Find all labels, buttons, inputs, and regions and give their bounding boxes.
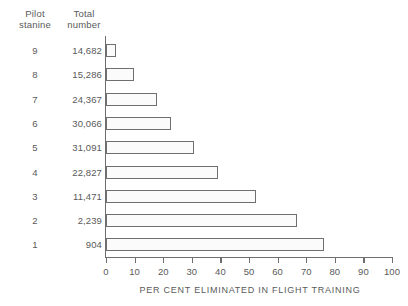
x-axis-tick-label: 30 xyxy=(177,266,207,278)
column-header-total-number: Total number xyxy=(62,8,106,30)
row-total-number: 2,239 xyxy=(56,215,102,227)
bar-chart: Pilot stanine Total number 914,682815,28… xyxy=(0,0,408,306)
y-axis-line xyxy=(105,36,106,258)
x-axis-tick xyxy=(335,258,336,263)
bar xyxy=(106,238,324,251)
x-axis-tick xyxy=(163,258,164,263)
row-stanine-label: 8 xyxy=(8,69,62,81)
table-row: 1904 xyxy=(0,236,408,254)
x-axis-tick-label: 0 xyxy=(91,266,121,278)
row-total-number: 15,286 xyxy=(56,69,102,81)
x-axis-tick xyxy=(220,258,221,263)
table-row: 311,471 xyxy=(0,188,408,206)
column-header-pilot-stanine: Pilot stanine xyxy=(8,8,62,30)
row-total-number: 30,066 xyxy=(56,118,102,130)
row-stanine-label: 5 xyxy=(8,142,62,154)
x-axis-tick xyxy=(392,258,393,263)
row-total-number: 24,367 xyxy=(56,94,102,106)
bar xyxy=(106,214,297,227)
row-stanine-label: 9 xyxy=(8,45,62,57)
x-axis-tick-label: 90 xyxy=(348,266,378,278)
x-axis-tick xyxy=(249,258,250,263)
x-axis-title: PER CENT ELIMINATED IN FLIGHT TRAINING xyxy=(105,285,395,295)
table-row: 630,066 xyxy=(0,115,408,133)
row-total-number: 904 xyxy=(56,239,102,251)
table-row: 815,286 xyxy=(0,66,408,84)
table-row: 914,682 xyxy=(0,42,408,60)
table-row: 724,367 xyxy=(0,91,408,109)
table-row: 422,827 xyxy=(0,164,408,182)
row-stanine-label: 6 xyxy=(8,118,62,130)
row-total-number: 31,091 xyxy=(56,142,102,154)
x-axis-tick-label: 10 xyxy=(120,266,150,278)
x-axis-tick-label: 70 xyxy=(291,266,321,278)
bar xyxy=(106,44,116,57)
row-stanine-label: 1 xyxy=(8,239,62,251)
row-stanine-label: 4 xyxy=(8,167,62,179)
x-axis-tick xyxy=(363,258,364,263)
bar xyxy=(106,166,218,179)
bar xyxy=(106,93,157,106)
bar xyxy=(106,190,256,203)
bar xyxy=(106,68,134,81)
x-axis-tick-label: 20 xyxy=(148,266,178,278)
x-axis-tick xyxy=(135,258,136,263)
row-total-number: 22,827 xyxy=(56,167,102,179)
bar xyxy=(106,117,171,130)
bar xyxy=(106,141,194,154)
row-stanine-label: 3 xyxy=(8,191,62,203)
x-axis-tick-label: 100 xyxy=(377,266,407,278)
x-axis-tick xyxy=(278,258,279,263)
x-axis-tick xyxy=(192,258,193,263)
x-axis-tick-label: 40 xyxy=(205,266,235,278)
table-row: 22,239 xyxy=(0,212,408,230)
x-axis-tick-label: 80 xyxy=(320,266,350,278)
row-total-number: 14,682 xyxy=(56,45,102,57)
x-axis-tick xyxy=(306,258,307,263)
row-total-number: 11,471 xyxy=(56,191,102,203)
x-axis-tick xyxy=(106,258,107,263)
x-axis-tick-label: 50 xyxy=(234,266,264,278)
row-stanine-label: 2 xyxy=(8,215,62,227)
row-stanine-label: 7 xyxy=(8,94,62,106)
x-axis-tick-label: 60 xyxy=(263,266,293,278)
table-row: 531,091 xyxy=(0,139,408,157)
